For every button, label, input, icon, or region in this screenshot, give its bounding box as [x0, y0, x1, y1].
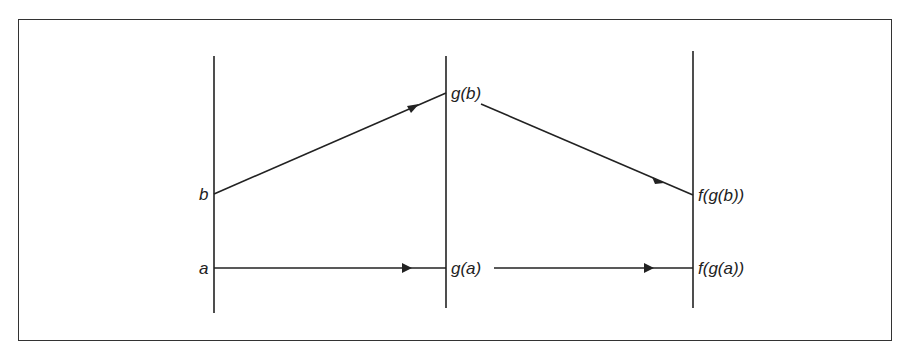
label-fgb: f(g(b)) [698, 186, 744, 205]
label-a: a [199, 259, 208, 278]
label-fga: f(g(a)) [698, 259, 744, 278]
arrowhead-a-to-ga [402, 263, 412, 273]
label-b: b [199, 185, 208, 204]
arrow-gb-to-fgb [481, 104, 693, 195]
label-ga: g(a) [451, 259, 481, 278]
arrowhead-gb-to-fgb [652, 177, 664, 184]
composition-diagram: b a g(b) g(a) f(g(b)) f(g(a)) [0, 0, 909, 356]
label-gb: g(b) [451, 84, 481, 103]
arrowhead-ga-to-fga [644, 263, 654, 273]
arrowhead-b-to-gb [407, 104, 419, 113]
